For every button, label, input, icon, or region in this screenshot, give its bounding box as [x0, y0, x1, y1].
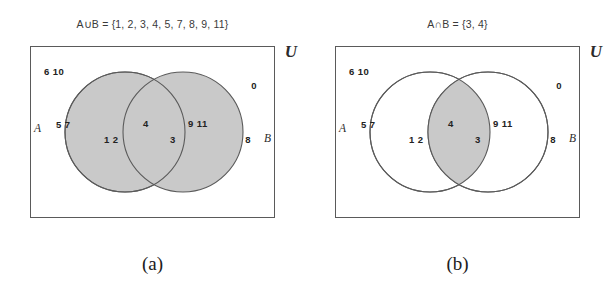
- element-a-only-union: 1 2: [104, 134, 118, 145]
- set-label-a-intersection: A: [339, 122, 346, 134]
- venn-circles-intersection: [335, 46, 580, 218]
- element-a-edge-intersection: 5 7: [361, 119, 375, 130]
- element-lens-left-intersection: 4: [448, 118, 454, 129]
- element-b-edge-union: 8: [245, 134, 251, 145]
- venn-panel-union: A∪B = {1, 2, 3, 4, 5, 7, 8, 9, 11} U A B…: [0, 0, 305, 289]
- element-outside-left-union: 6 10: [44, 66, 64, 77]
- element-outside-right-union: 0: [251, 80, 257, 91]
- venn-panel-intersection: A∩B = {3, 4} U A B 6 10: [305, 0, 610, 289]
- set-label-a-union: A: [34, 122, 41, 134]
- element-lens-right-intersection: 3: [475, 134, 481, 145]
- panel-title-intersection: A∩B = {3, 4}: [305, 18, 610, 30]
- set-label-b-union: B: [264, 132, 271, 144]
- element-outside-right-intersection: 0: [556, 80, 562, 91]
- element-lens-right-union: 3: [170, 134, 176, 145]
- set-label-b-intersection: B: [569, 132, 576, 144]
- venn-stage-union: U A B 6 10 0 5 7 1 2 4 3 9 11 8: [30, 46, 275, 218]
- circle-b-union: [123, 72, 243, 192]
- venn-circles-union: [30, 46, 275, 218]
- element-b-edge-intersection: 8: [550, 134, 556, 145]
- element-b-only-intersection: 9 11: [493, 118, 513, 129]
- element-a-edge-union: 5 7: [56, 119, 70, 130]
- panel-title-union: A∪B = {1, 2, 3, 4, 5, 7, 8, 9, 11}: [0, 18, 305, 30]
- element-a-only-intersection: 1 2: [409, 134, 423, 145]
- venn-stage-intersection: U A B 6 10 0 5 7 1 2: [335, 46, 580, 218]
- element-outside-left-intersection: 6 10: [349, 66, 369, 77]
- subcaption-a: (a): [0, 253, 305, 275]
- universe-label-union: U: [285, 42, 297, 62]
- venn-figure-row: A∪B = {1, 2, 3, 4, 5, 7, 8, 9, 11} U A B…: [0, 0, 611, 289]
- subcaption-b: (b): [305, 253, 610, 275]
- element-b-only-union: 9 11: [188, 118, 208, 129]
- universe-label-intersection: U: [590, 42, 602, 62]
- element-lens-left-union: 4: [143, 118, 149, 129]
